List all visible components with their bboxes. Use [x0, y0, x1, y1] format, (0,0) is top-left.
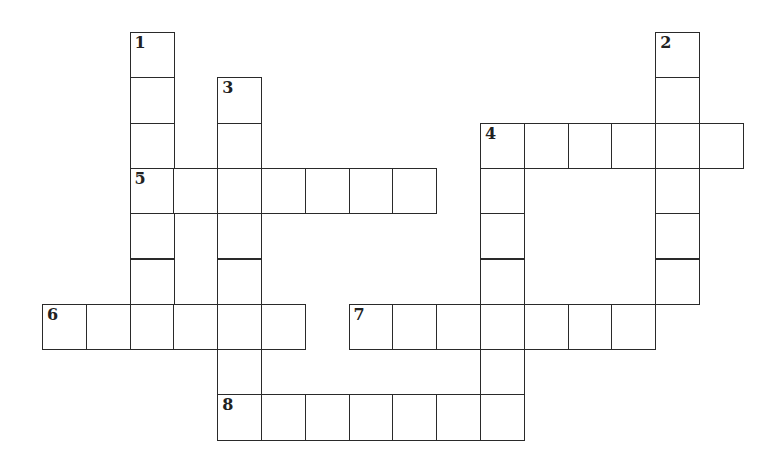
crossword-cell[interactable] — [436, 304, 481, 350]
crossword-cell[interactable] — [655, 168, 700, 214]
crossword-cell[interactable] — [655, 77, 700, 123]
crossword-cell[interactable] — [217, 213, 262, 259]
crossword-cell[interactable] — [611, 123, 656, 169]
crossword-cell[interactable] — [392, 168, 437, 214]
crossword-cell[interactable] — [261, 304, 306, 350]
crossword-cell[interactable] — [480, 394, 525, 440]
clue-number: 4 — [485, 126, 496, 142]
crossword-cell[interactable] — [173, 304, 218, 350]
crossword-cell[interactable] — [130, 77, 175, 123]
crossword-cell[interactable] — [261, 394, 306, 440]
crossword-cell[interactable] — [480, 304, 525, 350]
crossword-cell[interactable] — [217, 304, 262, 350]
crossword-cell[interactable] — [217, 349, 262, 395]
crossword-cell[interactable] — [130, 123, 175, 169]
crossword-cell[interactable] — [436, 394, 481, 440]
clue-number: 1 — [135, 35, 146, 51]
crossword-cell[interactable] — [480, 259, 525, 305]
crossword-cell[interactable]: 7 — [349, 304, 394, 350]
crossword-cell[interactable] — [217, 259, 262, 305]
crossword-cell[interactable]: 8 — [217, 394, 262, 440]
clue-number: 2 — [660, 35, 671, 51]
crossword-cell[interactable] — [217, 168, 262, 214]
crossword-cell[interactable] — [392, 394, 437, 440]
clue-number: 5 — [135, 171, 146, 187]
crossword-cell[interactable]: 3 — [217, 77, 262, 123]
crossword-cell[interactable]: 6 — [42, 304, 87, 350]
crossword-cell[interactable] — [349, 394, 394, 440]
crossword-cell[interactable] — [568, 304, 613, 350]
crossword-cell[interactable] — [655, 259, 700, 305]
crossword-cell[interactable] — [480, 349, 525, 395]
crossword-cell[interactable] — [392, 304, 437, 350]
crossword-cell[interactable] — [611, 304, 656, 350]
crossword-cell[interactable] — [261, 168, 306, 214]
crossword-cell[interactable] — [217, 123, 262, 169]
crossword-cell[interactable] — [305, 394, 350, 440]
crossword-cell[interactable] — [655, 213, 700, 259]
crossword-cell[interactable] — [305, 168, 350, 214]
crossword-cell[interactable] — [480, 213, 525, 259]
crossword-cell[interactable] — [173, 168, 218, 214]
clue-number: 6 — [47, 307, 58, 323]
crossword-cell[interactable] — [699, 123, 744, 169]
crossword-cell[interactable] — [130, 304, 175, 350]
crossword-cell[interactable]: 2 — [655, 32, 700, 78]
crossword-grid: 15238467 — [0, 0, 781, 452]
crossword-cell[interactable] — [130, 213, 175, 259]
crossword-cell[interactable] — [130, 259, 175, 305]
crossword-cell[interactable] — [349, 168, 394, 214]
crossword-cell[interactable]: 4 — [480, 123, 525, 169]
crossword-cell[interactable] — [655, 123, 700, 169]
crossword-cell[interactable]: 1 — [130, 32, 175, 78]
crossword-cell[interactable] — [480, 168, 525, 214]
clue-number: 8 — [222, 397, 233, 413]
crossword-cell[interactable] — [524, 123, 569, 169]
clue-number: 7 — [354, 307, 365, 323]
crossword-cell[interactable] — [568, 123, 613, 169]
crossword-cell[interactable]: 5 — [130, 168, 175, 214]
crossword-cell[interactable] — [524, 304, 569, 350]
clue-number: 3 — [222, 80, 233, 96]
crossword-cell[interactable] — [86, 304, 131, 350]
